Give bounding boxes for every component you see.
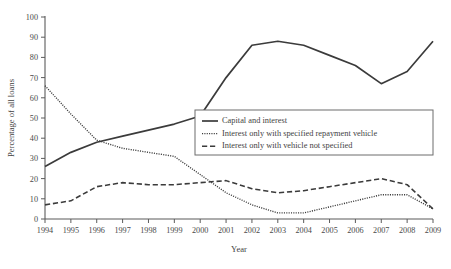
- legend-label: Interest only with vehicle not specified: [222, 141, 353, 150]
- y-tick-label: 0: [34, 215, 38, 224]
- x-tick-label: 2008: [399, 226, 415, 235]
- chart-legend: Capital and interestInterest only with s…: [195, 110, 433, 155]
- x-tick-label: 2004: [295, 226, 311, 235]
- chart-canvas: 0102030405060708090100 19941995199619971…: [0, 0, 451, 269]
- x-tick-label: 2005: [321, 226, 337, 235]
- y-tick-label: 80: [30, 53, 38, 62]
- y-tick-label: 20: [30, 175, 38, 184]
- x-tick-label: 1995: [63, 226, 79, 235]
- y-tick-label: 50: [30, 114, 38, 123]
- x-tick-label: 1994: [37, 226, 53, 235]
- x-tick-label: 2007: [373, 226, 389, 235]
- x-tick-label: 1997: [114, 226, 130, 235]
- line-chart-figure: 0102030405060708090100 19941995199619971…: [0, 0, 451, 269]
- x-tick-label: 2000: [192, 226, 208, 235]
- y-tick-label: 70: [30, 74, 38, 83]
- x-tick-label: 1996: [89, 226, 105, 235]
- x-tick-label: 2001: [218, 226, 234, 235]
- x-tick-label: 1998: [140, 226, 156, 235]
- y-tick-label: 60: [30, 94, 38, 103]
- y-tick-label: 30: [30, 154, 38, 163]
- y-axis-title: Percentage of all loans: [6, 78, 16, 157]
- y-tick-label: 100: [26, 13, 38, 22]
- x-tick-label: 2002: [244, 226, 260, 235]
- series-line-dashed: [45, 179, 433, 209]
- x-tick-label: 2009: [425, 226, 441, 235]
- x-tick-label: 2003: [270, 226, 286, 235]
- x-tick-label: 1999: [166, 226, 182, 235]
- y-tick-label: 10: [30, 195, 38, 204]
- x-axis-title: Year: [231, 244, 247, 254]
- y-tick-label: 40: [30, 134, 38, 143]
- legend-label: Capital and interest: [222, 116, 288, 125]
- legend-label: Interest only with specified repayment v…: [222, 129, 377, 138]
- x-axis-ticks: 1994199519961997199819992000200120022003…: [37, 219, 441, 235]
- y-tick-label: 90: [30, 33, 38, 42]
- y-axis-ticks: 0102030405060708090100: [26, 13, 45, 224]
- x-tick-label: 2006: [347, 226, 363, 235]
